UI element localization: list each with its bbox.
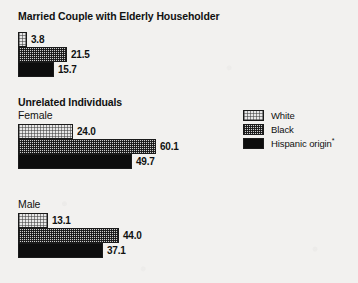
bar-married-hispanic [18,62,54,77]
legend-swatch-black [243,124,264,135]
bar-value-male-black: 44.0 [123,228,142,243]
bar-male-hispanic [18,243,103,258]
legend-label-black: Black [271,124,294,135]
bar-male-white [18,213,48,228]
bar-value-female-black: 60.1 [160,139,179,154]
bar-female-white [18,124,73,139]
legend-swatch-hispanic-origin [243,138,264,149]
legend-label-white: White [271,110,295,121]
bar-value-male-hispanic: 37.1 [107,243,126,258]
bar-value-married-hispanic: 15.7 [58,62,77,77]
legend-label-hispanic-origin: Hispanic origin* [271,138,334,149]
bar-value-male-white: 13.1 [52,213,71,228]
bar-female-hispanic [18,154,132,169]
legend-item-hispanic-origin: Hispanic origin* [243,137,355,150]
bar-female-black [18,139,156,154]
bar-chart: Married Couple with Elderly Householder … [0,0,358,283]
section-title-unrelated-individuals: Unrelated Individuals [18,96,122,108]
legend-label-hispanic-origin-text: Hispanic origin [271,138,332,149]
bar-value-married-white: 3.8 [31,32,44,47]
legend-item-white: White [243,109,355,122]
legend-footnote-marker: * [332,137,335,144]
section-title-married-couple: Married Couple with Elderly Householder [18,10,219,22]
group-label-male: Male [18,198,40,210]
chart-legend: White Black Hispanic origin* [243,109,355,151]
bar-married-black [18,47,67,62]
bar-value-female-white: 24.0 [77,124,96,139]
bar-value-female-hispanic: 49.7 [136,154,155,169]
group-label-female: Female [18,109,52,121]
legend-item-black: Black [243,123,355,136]
bar-value-married-black: 21.5 [71,47,90,62]
bar-married-white [18,32,27,47]
legend-swatch-white [243,110,264,121]
bar-male-black [18,228,119,243]
